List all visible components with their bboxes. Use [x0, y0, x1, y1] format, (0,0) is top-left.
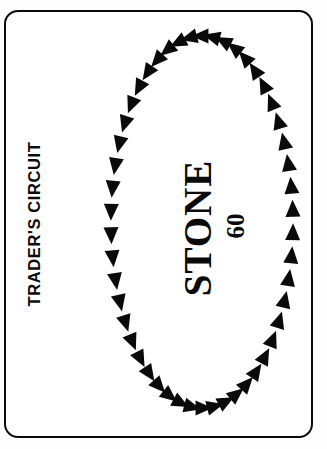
ring-arrow-marker	[116, 313, 130, 331]
trading-card: TRADER'S CIRCUIT STONE 60	[0, 0, 327, 449]
ring-arrow-marker	[127, 95, 141, 114]
ring-arrow-marker	[283, 246, 298, 264]
ring-arrow-marker	[105, 250, 120, 268]
ring-arrow-marker	[270, 312, 284, 330]
ring-arrow-marker	[268, 94, 282, 113]
ring-arrow-marker	[276, 291, 291, 309]
ring-arrow-marker	[246, 364, 262, 382]
ring-arrow-marker	[123, 332, 137, 351]
ring-arrow-marker	[139, 363, 155, 381]
ring-arrow-marker	[130, 348, 145, 367]
ring-arrow-marker	[282, 154, 297, 172]
ring-arrow-marker	[255, 348, 270, 367]
ring-arrow-marker	[111, 293, 126, 311]
ring-arrow-marker	[114, 135, 129, 153]
ring-arrow-marker	[263, 331, 277, 350]
arrow-ring	[0, 0, 327, 449]
ring-arrow-marker	[285, 223, 300, 240]
ring-arrow-marker	[274, 112, 288, 130]
ring-arrow-marker	[278, 133, 293, 151]
ring-arrow-marker	[120, 114, 134, 132]
ring-arrow-marker	[107, 272, 122, 290]
ring-arrow-marker	[286, 200, 301, 217]
ring-arrow-marker	[143, 62, 159, 80]
ring-arrow-marker	[106, 180, 121, 198]
ring-arrow-marker	[135, 77, 150, 96]
ring-arrow-marker	[285, 177, 300, 195]
ring-arrow-marker	[109, 157, 124, 175]
ring-arrow-marker	[103, 227, 118, 244]
ring-arrow-marker	[250, 63, 266, 81]
ring-arrow-marker	[259, 77, 274, 96]
ring-arrow-marker	[104, 204, 119, 221]
ring-arrow-marker	[280, 269, 295, 287]
